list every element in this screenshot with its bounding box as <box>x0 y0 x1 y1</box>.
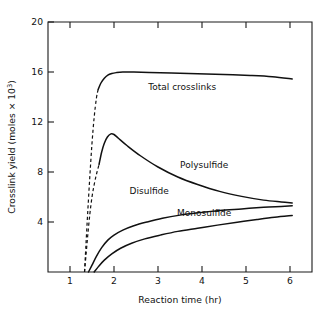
x-tick-label: 6 <box>287 275 293 286</box>
x-tick-label: 2 <box>111 275 117 286</box>
y-axis-title-main: Crosslink yield (moles × 10 <box>6 88 17 214</box>
series-label-disulfide: Disulfide <box>130 186 170 196</box>
x-tick-label: 3 <box>155 275 161 286</box>
y-tick-label: 8 <box>37 166 43 177</box>
y-tick-label: 16 <box>31 66 43 77</box>
y-tick-label: 4 <box>37 216 43 227</box>
y-tick-label: 20 <box>31 16 43 27</box>
series-label-monosulfide: Monosulfide <box>177 208 232 218</box>
x-tick-label: 1 <box>67 275 73 286</box>
crosslink-yield-chart: 48121620 123456 Total crosslinksPolysulf… <box>0 0 329 315</box>
series-label-total-crosslinks: Total crosslinks <box>147 82 216 92</box>
y-axis-ticks: 48121620 <box>31 16 54 227</box>
series-curves <box>85 72 293 272</box>
x-axis-title: Reaction time (hr) <box>138 294 221 305</box>
series-curve-monosulfide <box>94 216 292 273</box>
x-tick-label: 5 <box>243 275 249 286</box>
series-label-polysulfide: Polysulfide <box>180 160 229 170</box>
figure-container: 48121620 123456 Total crosslinksPolysulf… <box>0 0 329 315</box>
series-dashed-total-crosslinks <box>85 90 99 273</box>
series-inline-labels: Total crosslinksPolysulfideDisulfideMono… <box>130 82 232 218</box>
x-tick-label: 4 <box>199 275 205 286</box>
y-tick-label: 12 <box>31 116 43 127</box>
y-axis-title-close: ) <box>6 80 17 84</box>
y-axis-title: Crosslink yield (moles × 103) <box>6 80 17 213</box>
